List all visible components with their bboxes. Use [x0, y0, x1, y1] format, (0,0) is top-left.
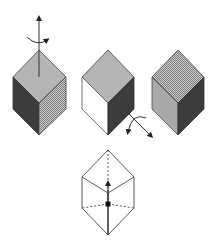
cube-1-rotation-arrow-icon [27, 37, 47, 43]
wireframe-cube [82, 150, 134, 235]
wireframe-hidden-edge-left [82, 204, 108, 208]
cube-2-rotation-axis [121, 106, 151, 136]
diagram-canvas [0, 0, 217, 250]
cube-3 [152, 50, 204, 135]
cube-2-rotation-arrow-icon [128, 117, 146, 132]
cube-1 [13, 18, 66, 135]
cube-rotation-diagram [0, 0, 217, 250]
hidden-vertex-dot-icon [106, 202, 111, 207]
cube-2 [82, 50, 151, 136]
wireframe-hidden-edge-right [108, 204, 134, 208]
